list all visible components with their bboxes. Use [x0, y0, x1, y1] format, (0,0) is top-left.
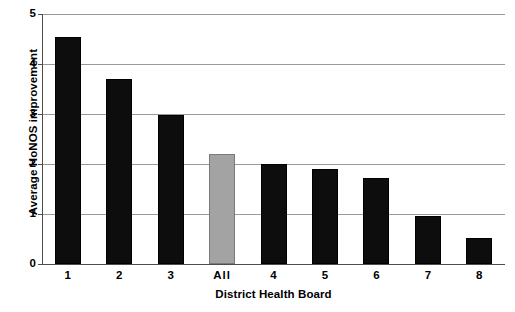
- y-axis-tick-label: 1: [22, 208, 36, 220]
- x-axis-tick-label: All: [213, 268, 231, 282]
- x-axis-tick-label: 8: [476, 268, 482, 282]
- bar-2[interactable]: [106, 79, 132, 264]
- y-axis-tick-label: 2: [22, 158, 36, 170]
- x-axis-tick-label: 6: [373, 268, 379, 282]
- x-axis-tick-label: 4: [270, 268, 276, 282]
- y-axis-tick-label: 5: [22, 8, 36, 20]
- y-axis-tick-label: 3: [22, 108, 36, 120]
- y-axis-tick-label: 0: [22, 258, 36, 270]
- x-axis-tick-label: 5: [322, 268, 328, 282]
- bar-1[interactable]: [55, 37, 81, 265]
- bar-6[interactable]: [363, 178, 389, 264]
- plot-area: [42, 14, 505, 264]
- bar-5[interactable]: [312, 169, 338, 264]
- x-axis-line: [42, 264, 505, 265]
- bar-all[interactable]: [209, 154, 235, 264]
- x-axis-title: District Health Board: [42, 288, 505, 300]
- bar-4[interactable]: [261, 164, 287, 264]
- x-axis-tick-label: 7: [425, 268, 431, 282]
- y-axis-tick-labels: 012345: [22, 0, 36, 312]
- y-axis-tick-label: 4: [22, 58, 36, 70]
- x-axis-tick-labels: 123All45678: [42, 268, 505, 284]
- bar-3[interactable]: [158, 115, 184, 264]
- x-axis-tick-label: 3: [167, 268, 173, 282]
- x-axis-tick-label: 1: [65, 268, 71, 282]
- bar-7[interactable]: [415, 216, 441, 265]
- x-axis-tick-label: 2: [116, 268, 122, 282]
- bars-group: [42, 14, 505, 264]
- bar-8[interactable]: [466, 238, 492, 264]
- bar-chart: Average HoNOS improvement 012345 123All4…: [0, 0, 515, 312]
